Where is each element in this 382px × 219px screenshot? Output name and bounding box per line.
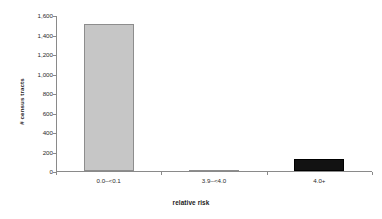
x-axis-tick — [372, 172, 373, 175]
x-axis-tick-label: 3.9–<4.0 — [202, 178, 226, 184]
x-axis-tick-labels: 0.0–<0.13.9–<4.04.0+ — [56, 178, 372, 190]
bar-chart: # census tracts 02004006008001,0001,2001… — [0, 0, 382, 219]
x-axis-title: relative risk — [0, 199, 382, 206]
y-axis-tick — [53, 133, 56, 134]
y-axis-tick — [53, 94, 56, 95]
y-axis-title: # census tracts — [14, 58, 28, 144]
y-axis-tick-label: 600 — [43, 110, 53, 116]
y-axis-tick-label: 400 — [43, 130, 53, 136]
y-axis-tick-label: 1,400 — [38, 32, 53, 38]
bar — [189, 170, 239, 172]
y-axis-tick — [53, 75, 56, 76]
y-axis-tick-label: 1,200 — [38, 52, 53, 58]
x-axis-tick — [161, 172, 162, 175]
y-axis-tick-label: 800 — [43, 91, 53, 97]
y-axis-tick-label: 1,600 — [38, 13, 53, 19]
plot-area — [56, 16, 372, 172]
x-axis-tick-label: 0.0–<0.1 — [97, 178, 121, 184]
x-axis-line — [56, 171, 372, 172]
x-axis-tick — [267, 172, 268, 175]
y-axis-tick — [53, 153, 56, 154]
x-axis-tick — [56, 172, 57, 175]
x-axis-tick-label: 4.0+ — [313, 178, 325, 184]
y-axis-tick-labels: 02004006008001,0001,2001,4001,600 — [28, 16, 53, 172]
y-axis-title-text: # census tracts — [18, 78, 25, 125]
y-axis-tick — [53, 55, 56, 56]
y-axis-tick — [53, 16, 56, 17]
y-axis-tick-label: 200 — [43, 149, 53, 155]
y-axis-tick-label: 1,000 — [38, 71, 53, 77]
y-axis-tick — [53, 114, 56, 115]
y-axis-tick — [53, 36, 56, 37]
y-axis-line — [56, 16, 57, 172]
bar — [294, 159, 344, 171]
bar — [84, 24, 134, 171]
